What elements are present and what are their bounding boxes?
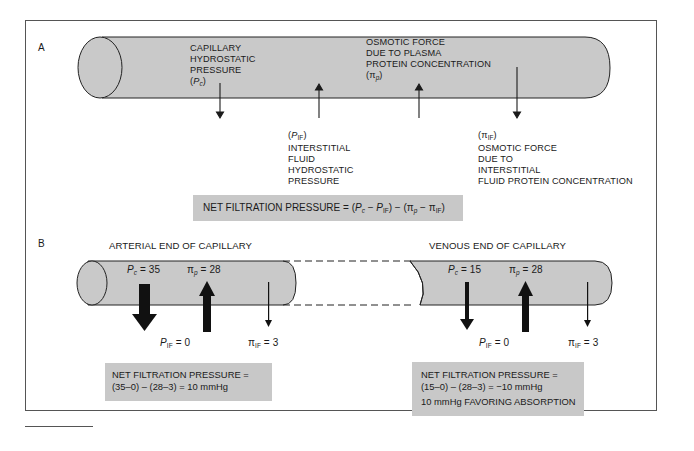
venous-result-box: NET FILTRATION PRESSURE = (15–0) – (28–3… [412,362,584,416]
venous-piif-value: πIF = 3 [568,337,598,351]
venous-pip-value: πp = 28 [509,264,543,278]
venous-end-title: VENOUS END OF CAPILLARY [429,240,566,251]
plasma-osmotic-force-label: OSMOTIC FORCE DUE TO PLASMA PROTEIN CONC… [366,37,491,83]
capillary-hydrostatic-pressure-label: CAPILLARY HYDROSTATIC PRESSURE (Pc) [190,43,256,89]
net-filtration-formula-box: NET FILTRATION PRESSURE = (Pc − PIF) − (… [193,195,463,221]
panel-b-label: B [38,238,45,249]
interstitial-osmotic-force-label: (πIF) OSMOTIC FORCE DUE TO INTERSTITIAL … [478,130,633,187]
panel-a-label: A [38,42,45,53]
panel-a-capillary-vessel [78,37,610,98]
venous-pif-value: PIF = 0 [479,337,509,351]
venous-pc-value: Pc = 15 [448,264,481,278]
interstitial-hydrostatic-pressure-label: (PIF) INTERSTITIAL FLUID HYDROSTATIC PRE… [288,130,354,187]
arterial-end-title: ARTERIAL END OF CAPILLARY [109,240,252,251]
arterial-pc-value: Pc = 35 [127,264,160,278]
dashed-capillary-connector [283,261,415,305]
arterial-pif-value: PIF = 0 [160,337,190,351]
arterial-piif-value: πIF = 3 [248,337,278,351]
arterial-pip-value: πp = 28 [187,264,221,278]
arterial-result-box: NET FILTRATION PRESSURE = (35–0) – (28–3… [105,363,272,401]
